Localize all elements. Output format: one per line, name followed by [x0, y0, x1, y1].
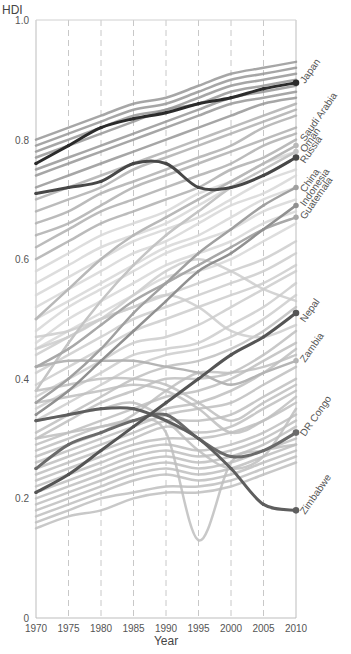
- series-marker: [99, 407, 102, 410]
- series-marker: [262, 335, 265, 338]
- series-marker: [67, 413, 70, 416]
- series-marker: [229, 186, 232, 189]
- hdi-line-chart: HDI 00.20.40.60.81.0 1970197519801985199…: [0, 0, 351, 654]
- series-marker: [35, 318, 38, 321]
- series-marker: [164, 419, 167, 422]
- series-marker: [67, 186, 70, 189]
- series-marker: [262, 449, 265, 452]
- y-tick-label: 1.0: [15, 15, 29, 26]
- series-marker: [229, 353, 232, 356]
- x-tick-label: 1980: [90, 623, 113, 634]
- series-marker: [164, 162, 167, 165]
- series-marker: [99, 126, 102, 129]
- x-tick-label: 2010: [285, 623, 308, 634]
- series-marker: [197, 270, 200, 273]
- series-marker: [132, 419, 135, 422]
- x-axis-title: Year: [154, 634, 178, 648]
- series-marker: [132, 425, 135, 428]
- series-marker: [229, 467, 232, 470]
- country-label: DR Congo: [298, 393, 334, 438]
- series-marker: [34, 192, 37, 195]
- series-marker: [132, 359, 135, 362]
- series-marker: [100, 348, 103, 351]
- series-marker: [34, 491, 37, 494]
- x-tick-label: 1995: [187, 623, 210, 634]
- series-marker: [197, 252, 200, 255]
- y-tick-label: 0.4: [15, 374, 29, 385]
- y-tick-label: 0.2: [15, 493, 29, 504]
- series-marker: [165, 234, 168, 237]
- series-marker: [67, 144, 70, 147]
- series-marker: [262, 371, 265, 374]
- series-marker: [132, 312, 135, 315]
- series-marker: [132, 162, 135, 165]
- y-tick-label: 0.6: [15, 254, 29, 265]
- series-marker: [262, 174, 265, 177]
- series-marker: [67, 443, 70, 446]
- series-marker: [67, 359, 70, 362]
- series-marker: [35, 401, 38, 404]
- series-marker: [230, 383, 233, 386]
- series-marker: [262, 503, 265, 506]
- x-tick-label: 2000: [220, 623, 243, 634]
- series-marker: [229, 96, 232, 99]
- series-marker: [132, 330, 135, 333]
- series-marker: [230, 252, 233, 255]
- x-tick-label: 1970: [25, 623, 48, 634]
- country-label: Nepal: [298, 296, 322, 324]
- series-marker: [230, 180, 233, 183]
- series-marker: [99, 431, 102, 434]
- series-marker: [34, 467, 37, 470]
- series-marker: [230, 246, 233, 249]
- series-marker: [164, 413, 167, 416]
- series-marker: [262, 162, 265, 165]
- series-marker: [197, 102, 200, 105]
- series-marker: [67, 473, 70, 476]
- series-marker: [262, 168, 265, 171]
- series-marker: [197, 377, 200, 380]
- series-marker: [35, 389, 38, 392]
- y-axis-ticks: 00.20.40.60.81.0: [15, 15, 29, 624]
- x-axis-ticks: 197019751980198519901995200020052010: [25, 623, 308, 634]
- country-labels: JapanSaudi ArabiaOmanRussiaChinaIndonesi…: [298, 57, 340, 517]
- series-marker: [262, 204, 265, 207]
- series-marker: [34, 162, 37, 165]
- series-marker: [197, 186, 200, 189]
- series-marker: [230, 228, 233, 231]
- x-tick-label: 1975: [57, 623, 80, 634]
- series-marker: [197, 264, 200, 267]
- series-marker: [262, 228, 265, 231]
- series-marker: [262, 87, 265, 90]
- series-marker: [100, 258, 103, 261]
- series-marker: [197, 371, 200, 374]
- series-marker: [100, 324, 103, 327]
- x-tick-label: 2005: [252, 623, 275, 634]
- series-marker: [229, 455, 232, 458]
- series-marker: [67, 342, 70, 345]
- series-marker: [197, 437, 200, 440]
- series-marker: [67, 348, 70, 351]
- series-marker: [132, 264, 135, 267]
- series-marker: [100, 300, 103, 303]
- series-marker: [132, 117, 135, 120]
- series-marker: [164, 111, 167, 114]
- country-label: Zambia: [298, 330, 326, 364]
- series-marker: [35, 365, 38, 368]
- series-marker: [165, 282, 168, 285]
- series-marker: [67, 377, 70, 380]
- series-end-marker: [293, 149, 299, 155]
- series-marker: [34, 419, 37, 422]
- series-marker: [100, 359, 103, 362]
- x-tick-label: 1990: [155, 623, 178, 634]
- series-end-marker: [293, 203, 299, 209]
- series-marker: [165, 216, 168, 219]
- country-label: Zimbabwe: [298, 472, 334, 516]
- series-marker: [132, 300, 135, 303]
- series-marker: [67, 288, 70, 291]
- series-marker: [197, 210, 200, 213]
- series-marker: [164, 401, 167, 404]
- series-marker: [132, 234, 135, 237]
- series-marker: [99, 180, 102, 183]
- y-tick-label: 0.8: [15, 135, 29, 146]
- series-marker: [165, 300, 168, 303]
